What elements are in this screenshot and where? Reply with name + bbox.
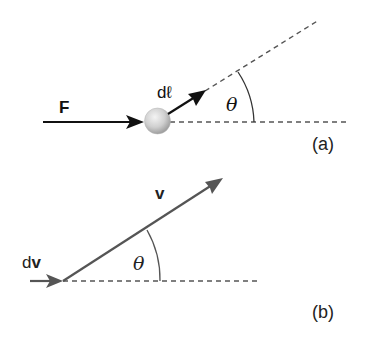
velocity-label: v bbox=[155, 184, 165, 203]
dv-prefix: d bbox=[22, 253, 31, 272]
dv-label: dv bbox=[22, 253, 41, 272]
displacement-arrow bbox=[168, 90, 206, 114]
angle-label-a: θ bbox=[226, 93, 238, 115]
force-arrow bbox=[43, 115, 144, 129]
particle-sphere bbox=[145, 108, 171, 134]
panel-b: v dv θ (b) bbox=[22, 178, 334, 322]
dv-vector: v bbox=[31, 253, 41, 272]
displacement-label: dℓ bbox=[157, 83, 172, 102]
angle-label-b: θ bbox=[133, 252, 145, 274]
work-velocity-diagram: F dℓ θ (a) v dv θ (b) bbox=[0, 0, 366, 341]
panel-label-a: (a) bbox=[312, 134, 334, 154]
angle-arc-b bbox=[147, 230, 160, 281]
dv-arrow bbox=[30, 274, 63, 288]
angle-arc-a bbox=[238, 72, 254, 122]
displacement-direction-line bbox=[205, 20, 319, 91]
force-label: F bbox=[59, 98, 69, 117]
panel-a: F dℓ θ (a) bbox=[43, 20, 348, 154]
panel-label-b: (b) bbox=[312, 302, 334, 322]
